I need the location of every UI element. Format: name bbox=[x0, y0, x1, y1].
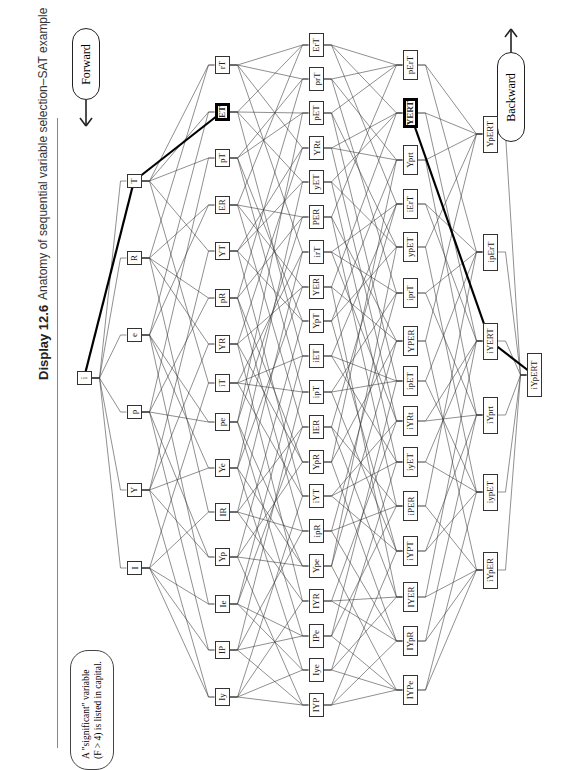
node-YpR: YpR bbox=[309, 450, 324, 475]
node-label: ipET bbox=[405, 372, 415, 390]
node-label: pET bbox=[311, 105, 321, 121]
node-label: ER bbox=[217, 199, 227, 211]
node-label: IYR bbox=[311, 593, 321, 609]
node-label: PER bbox=[311, 209, 321, 226]
node-prT: prT bbox=[309, 67, 324, 92]
node-label: iYERT bbox=[485, 328, 495, 353]
node-label: ErT bbox=[311, 38, 321, 52]
node-pErT: pErT bbox=[403, 50, 418, 81]
node-label: YT bbox=[217, 245, 227, 257]
node-IYpR: IYpR bbox=[403, 626, 418, 657]
node-YRt: YRt bbox=[309, 136, 324, 161]
node-label: pe bbox=[217, 418, 227, 427]
node-e: e bbox=[127, 328, 142, 342]
node-pe: pe bbox=[215, 413, 230, 431]
node-label: p bbox=[129, 410, 139, 415]
node-iYpERT: iYpERT bbox=[527, 353, 542, 396]
node-label: IYPe bbox=[405, 681, 415, 700]
node-label: Iy bbox=[217, 693, 227, 701]
forward-label: Forward bbox=[72, 28, 100, 100]
node-pR: pR bbox=[215, 289, 230, 307]
backward-label: Backward bbox=[497, 52, 525, 142]
legend-box: A "significant" variable (F > 4) is list… bbox=[70, 650, 114, 770]
node-label: iprT bbox=[405, 285, 415, 301]
node-YR: YR bbox=[215, 335, 230, 353]
node-yET: yET bbox=[309, 170, 324, 195]
node-label: Iye bbox=[311, 664, 321, 676]
node-ipR: ipR bbox=[309, 519, 324, 544]
node-iYpER: iYpER bbox=[483, 552, 498, 589]
node-pET: pET bbox=[309, 101, 324, 126]
node-ypET: ypET bbox=[403, 232, 418, 263]
node-iYprt: iYprt bbox=[483, 397, 498, 434]
node-PER: PER bbox=[309, 205, 324, 230]
node-label: irT bbox=[311, 246, 321, 257]
node-label: i bbox=[79, 377, 89, 380]
node-label: iErT bbox=[405, 196, 415, 213]
node-Ie: Ie bbox=[215, 595, 230, 613]
node-label: iyET bbox=[405, 453, 415, 471]
node-iypET: iypET bbox=[483, 474, 498, 511]
figure-title: Anatomy of sequential variable selection… bbox=[36, 8, 50, 300]
node-label: YER bbox=[311, 278, 321, 296]
node-label: e bbox=[129, 333, 139, 337]
node-pT: pT bbox=[215, 149, 230, 167]
node-label: IYpR bbox=[405, 631, 415, 650]
node-label: ipR bbox=[311, 524, 321, 537]
node-rT: rT bbox=[215, 56, 230, 74]
node-iET: iET bbox=[309, 344, 324, 369]
node-IYPe: IYPe bbox=[403, 675, 418, 706]
node-iErT: iErT bbox=[403, 189, 418, 220]
node-label: ipErT bbox=[485, 242, 495, 263]
node-IER: IER bbox=[309, 415, 324, 440]
node-IR: IR bbox=[215, 503, 230, 521]
node-iYPT: iYPT bbox=[403, 536, 418, 567]
node-irT: irT bbox=[309, 240, 324, 265]
node-ErT: ErT bbox=[309, 33, 324, 58]
node-Iye: Iye bbox=[309, 658, 324, 683]
legend-line-1: A "significant" variable bbox=[80, 661, 92, 759]
node-iPER: iPER bbox=[403, 491, 418, 522]
node-label: Yprt bbox=[405, 152, 415, 168]
node-YT: YT bbox=[215, 242, 230, 260]
node-label: YRt bbox=[311, 140, 321, 155]
display-number: Display 12.6 bbox=[36, 305, 51, 380]
node-iyET: iyET bbox=[403, 447, 418, 478]
node-R: R bbox=[127, 251, 142, 265]
node-ipT: ipT bbox=[309, 380, 324, 405]
node-label: iYPT bbox=[405, 541, 415, 561]
node-Ye: Ye bbox=[215, 459, 230, 477]
node-label: iYRt bbox=[405, 412, 415, 430]
node-iprT: iprT bbox=[403, 278, 418, 309]
node-label: IR bbox=[217, 507, 227, 516]
node-label: Ype bbox=[311, 559, 321, 573]
node-label: pR bbox=[217, 293, 227, 304]
node-label: iT bbox=[217, 379, 227, 387]
node-label: YpERT bbox=[485, 121, 495, 148]
node-ER: ER bbox=[215, 196, 230, 214]
node-label: YpR bbox=[311, 454, 321, 470]
node-label: rT bbox=[217, 61, 227, 70]
title-rule bbox=[57, 118, 58, 748]
node-label: Yp bbox=[217, 552, 227, 562]
legend-text: A "significant" variable (F > 4) is list… bbox=[80, 661, 104, 759]
node-IP: IP bbox=[215, 641, 230, 659]
node-label: iYT bbox=[311, 489, 321, 504]
node-Yp: Yp bbox=[215, 548, 230, 566]
node-label: ET bbox=[217, 106, 227, 118]
node-label: Y bbox=[129, 487, 139, 494]
node-ipErT: ipErT bbox=[483, 234, 498, 271]
node-label: ipT bbox=[311, 386, 321, 399]
node-iYT: iYT bbox=[309, 484, 324, 509]
node-YpERT: YpERT bbox=[483, 116, 498, 153]
node-label: I bbox=[129, 567, 139, 570]
node-label: pErT bbox=[405, 56, 415, 75]
node-I: I bbox=[127, 561, 142, 575]
node-label: IPe bbox=[311, 630, 321, 642]
node-label: iypET bbox=[485, 481, 495, 504]
node-label: R bbox=[129, 255, 139, 261]
node-label: yET bbox=[311, 174, 321, 190]
node-Yprt: Yprt bbox=[403, 145, 418, 176]
node-label: IYER bbox=[405, 586, 415, 607]
node-label: YPER bbox=[405, 329, 415, 352]
